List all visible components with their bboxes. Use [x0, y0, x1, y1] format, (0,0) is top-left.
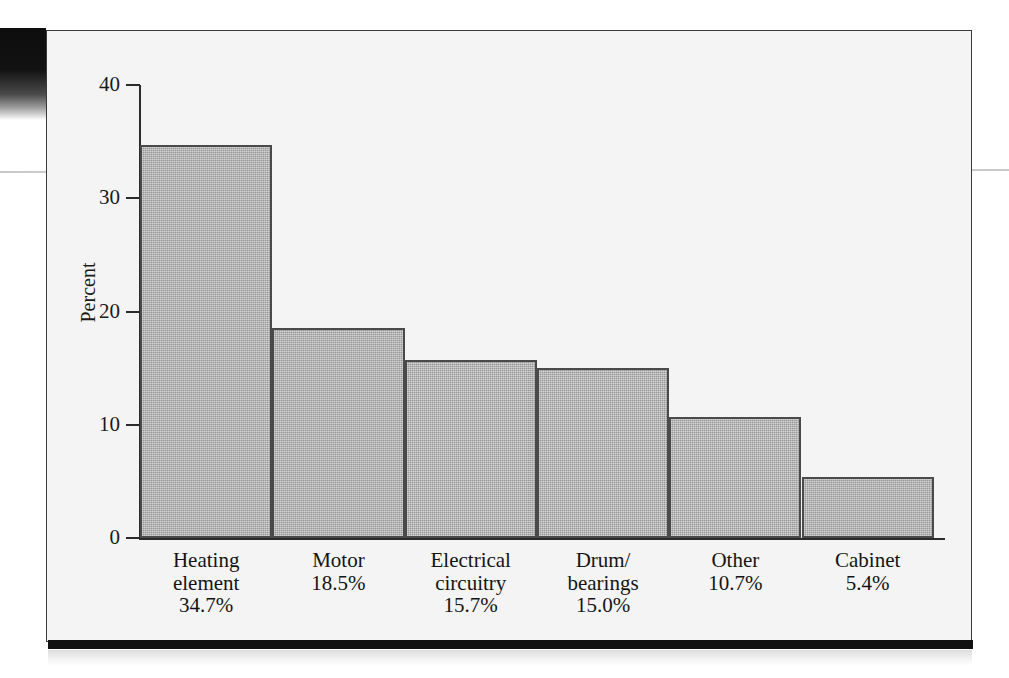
bar	[669, 417, 801, 538]
y-axis-title: Percent	[77, 261, 100, 325]
category-label: Electrical circuitry15.7%	[405, 549, 537, 617]
y-axis-tick-label: 10	[60, 414, 120, 435]
bar	[140, 145, 272, 538]
category-percent: 15.0%	[537, 594, 669, 617]
page-baseline-rule	[48, 640, 973, 649]
y-axis-tick-label: 40	[60, 74, 120, 95]
y-axis-tick	[126, 424, 140, 426]
category-name: Motor	[272, 549, 404, 572]
category-label: Motor18.5%	[272, 549, 404, 594]
category-name: Other	[669, 549, 801, 572]
category-percent: 34.7%	[140, 594, 272, 617]
category-name: Electrical circuitry	[405, 549, 537, 594]
category-label: Other10.7%	[669, 549, 801, 594]
category-percent: 18.5%	[272, 572, 404, 595]
category-percent: 5.4%	[802, 572, 934, 595]
category-name: Heating element	[140, 549, 272, 594]
y-axis-tick	[126, 311, 140, 313]
category-percent: 15.7%	[405, 594, 537, 617]
category-percent: 10.7%	[669, 572, 801, 595]
bar	[802, 477, 934, 538]
y-axis-tick-label: 0	[60, 527, 120, 548]
y-axis-tick	[126, 537, 140, 539]
page-shadow-artifact	[48, 650, 972, 666]
bar	[272, 328, 404, 538]
y-axis-tick	[126, 197, 140, 199]
y-axis-tick	[126, 84, 140, 86]
y-axis-tick-label: 30	[60, 187, 120, 208]
plot-area: 403020100 Percent Heating element34.7%Mo…	[0, 0, 1009, 678]
category-label: Heating element34.7%	[140, 549, 272, 617]
category-name: Drum/ bearings	[537, 549, 669, 594]
category-label: Cabinet5.4%	[802, 549, 934, 594]
x-axis-line	[139, 538, 945, 540]
bar	[537, 368, 669, 538]
category-label: Drum/ bearings15.0%	[537, 549, 669, 617]
category-name: Cabinet	[802, 549, 934, 572]
figure-page: 403020100 Percent Heating element34.7%Mo…	[0, 0, 1009, 678]
bar	[405, 360, 537, 538]
